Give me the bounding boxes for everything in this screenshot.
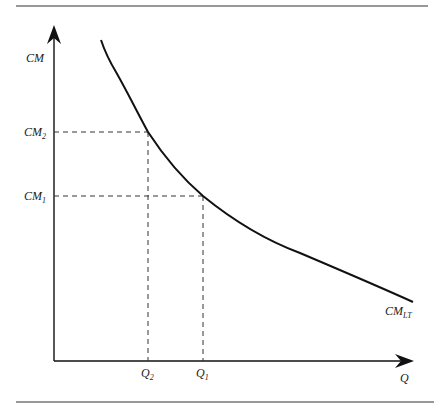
cm1-label: CM1 [24,189,46,205]
x-axis-label: Q [400,371,409,385]
long-run-average-cost-diagram: CM CM2 CM1 Q2 Q1 Q CMLT [0,0,446,412]
q2-label: Q2 [141,366,154,382]
curve-label: CMLT [385,304,412,320]
y-axis-label: CM [26,51,45,65]
q1-label: Q1 [196,366,209,382]
cm2-label: CM2 [24,125,46,141]
